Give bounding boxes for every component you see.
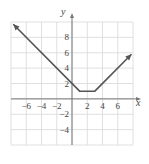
chart: −6−4−22468642−2−4 x y [0,0,149,164]
x-tick-label: −6 [21,101,31,111]
x-tick-label: 4 [100,101,105,111]
x-tick-label: −4 [37,101,47,111]
y-tick-label: 4 [65,63,70,73]
x-axis-label: x [135,97,141,108]
y-tick-label: −4 [59,125,69,135]
x-tick-label: 6 [116,101,121,111]
y-tick-label: 8 [65,32,70,42]
x-tick-label: 2 [85,101,90,111]
y-axis-label: y [60,6,66,17]
axes [11,13,141,145]
y-tick-label: 6 [65,48,70,58]
y-axis-arrow-icon [70,13,74,18]
y-tick-label: −2 [59,109,69,119]
